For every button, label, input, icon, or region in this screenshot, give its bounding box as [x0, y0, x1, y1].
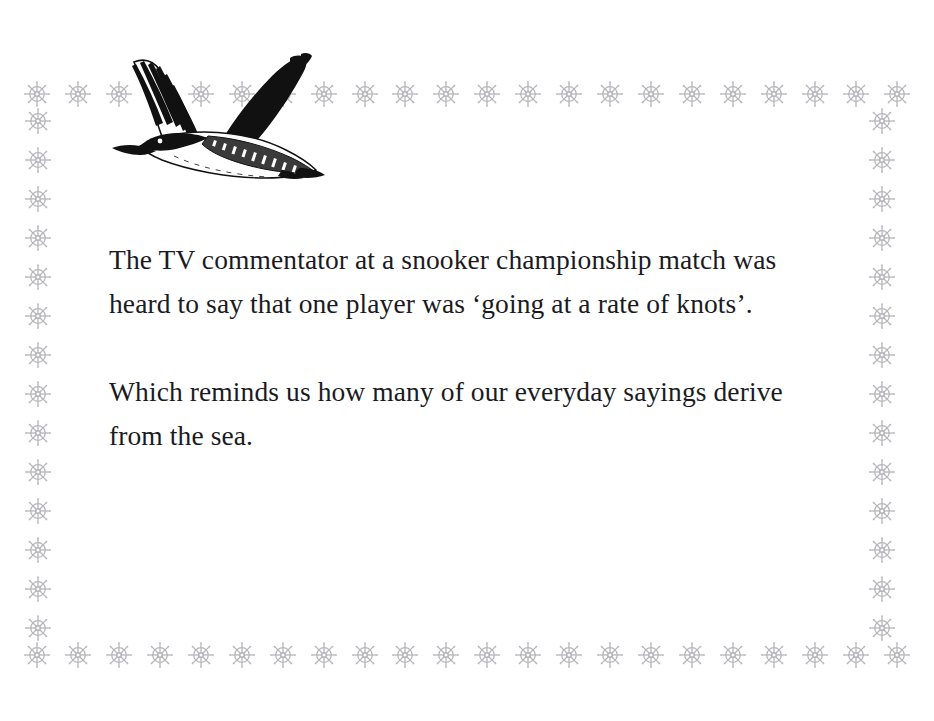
ships-wheel-icon	[25, 615, 51, 641]
ships-wheel-icon	[597, 81, 623, 107]
ships-wheel-icon	[802, 81, 828, 107]
ships-wheel-icon	[147, 642, 173, 668]
ships-wheel-icon	[515, 642, 541, 668]
ships-wheel-icon	[474, 81, 500, 107]
ships-wheel-icon	[25, 342, 51, 368]
ships-wheel-icon	[25, 537, 51, 563]
ships-wheel-icon	[352, 81, 378, 107]
ships-wheel-icon	[869, 225, 895, 251]
ships-wheel-icon	[720, 642, 746, 668]
ships-wheel-icon	[679, 642, 705, 668]
ships-wheel-icon	[869, 576, 895, 602]
ships-wheel-icon	[270, 642, 296, 668]
flying-seabird-icon	[104, 28, 326, 196]
ships-wheel-icon	[869, 381, 895, 407]
ships-wheel-icon	[869, 615, 895, 641]
ships-wheel-icon	[392, 81, 418, 107]
ships-wheel-icon	[761, 642, 787, 668]
ships-wheel-icon	[869, 420, 895, 446]
ships-wheel-icon	[761, 81, 787, 107]
ships-wheel-icon	[188, 642, 214, 668]
ships-wheel-icon	[24, 642, 50, 668]
body-copy: The TV commentator at a snooker champion…	[109, 238, 809, 458]
ships-wheel-icon	[24, 81, 50, 107]
ships-wheel-icon	[229, 642, 255, 668]
ships-wheel-icon	[106, 642, 132, 668]
border-left-column	[24, 108, 52, 641]
ships-wheel-icon	[679, 81, 705, 107]
ships-wheel-icon	[25, 498, 51, 524]
ships-wheel-icon	[843, 81, 869, 107]
ships-wheel-icon	[474, 642, 500, 668]
ships-wheel-icon	[556, 642, 582, 668]
ships-wheel-icon	[25, 225, 51, 251]
border-right-column	[868, 108, 896, 641]
ships-wheel-icon	[25, 147, 51, 173]
ships-wheel-icon	[869, 459, 895, 485]
ships-wheel-icon	[597, 642, 623, 668]
seabird-artwork	[112, 53, 325, 179]
ships-wheel-icon	[65, 642, 91, 668]
ships-wheel-icon	[802, 642, 828, 668]
ships-wheel-icon	[869, 147, 895, 173]
ships-wheel-icon	[884, 642, 910, 668]
ships-wheel-icon	[25, 576, 51, 602]
ships-wheel-icon	[869, 537, 895, 563]
paragraph-1: The TV commentator at a snooker champion…	[109, 238, 809, 326]
ships-wheel-icon	[65, 81, 91, 107]
ships-wheel-icon	[25, 420, 51, 446]
ships-wheel-icon	[25, 108, 51, 134]
ships-wheel-icon	[25, 303, 51, 329]
ships-wheel-icon	[869, 108, 895, 134]
ships-wheel-icon	[869, 342, 895, 368]
paragraph-2: Which reminds us how many of our everyda…	[109, 370, 809, 458]
ships-wheel-icon	[25, 186, 51, 212]
ships-wheel-icon	[433, 642, 459, 668]
ships-wheel-icon	[515, 81, 541, 107]
ships-wheel-icon	[869, 186, 895, 212]
ships-wheel-icon	[638, 642, 664, 668]
ships-wheel-icon	[869, 498, 895, 524]
ships-wheel-icon	[25, 264, 51, 290]
ships-wheel-icon	[392, 642, 418, 668]
ships-wheel-icon	[869, 303, 895, 329]
ships-wheel-icon	[352, 642, 378, 668]
ships-wheel-icon	[25, 459, 51, 485]
ships-wheel-icon	[869, 264, 895, 290]
page-canvas: The TV commentator at a snooker champion…	[0, 0, 934, 721]
ships-wheel-icon	[720, 81, 746, 107]
ships-wheel-icon	[556, 81, 582, 107]
border-bottom-row	[24, 641, 910, 669]
ships-wheel-icon	[311, 642, 337, 668]
ships-wheel-icon	[25, 381, 51, 407]
ships-wheel-icon	[843, 642, 869, 668]
ships-wheel-icon	[638, 81, 664, 107]
ships-wheel-icon	[433, 81, 459, 107]
ships-wheel-icon	[884, 81, 910, 107]
